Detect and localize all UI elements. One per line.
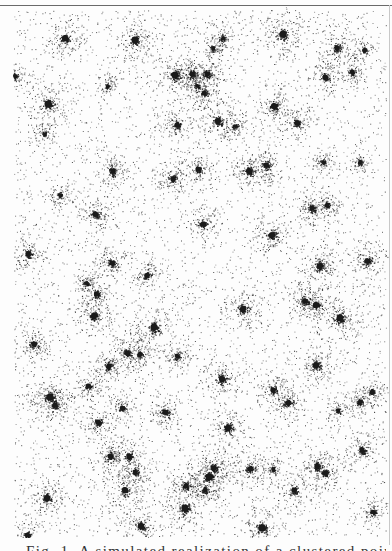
- figure-caption: Fig. 1. A simulated realization of a clu…: [26, 540, 386, 551]
- point-pattern-figure: [0, 6, 389, 538]
- point-cloud-plot: [0, 6, 389, 538]
- scanned-page: Fig. 1. A simulated realization of a clu…: [0, 0, 392, 551]
- right-border: [389, 5, 390, 545]
